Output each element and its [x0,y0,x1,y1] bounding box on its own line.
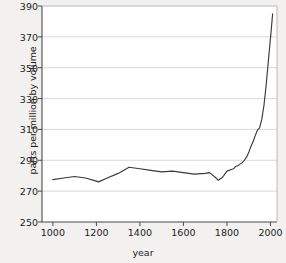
y-tick-marks [38,6,42,222]
plot-background [42,6,277,222]
plot-area [0,0,286,263]
x-tick-marks [53,222,271,226]
co2-line-chart: parts per million by volume year 390 370… [0,0,286,263]
